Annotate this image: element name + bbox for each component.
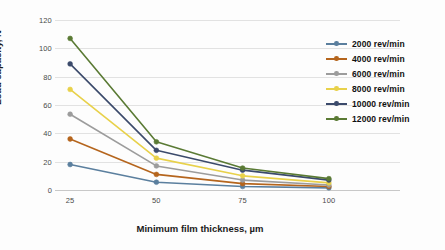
data-point (154, 139, 159, 144)
x-tick-label: 100 (309, 196, 349, 205)
x-axis-line (55, 190, 400, 191)
series-line (70, 64, 329, 180)
chart-legend: 2000 rev/min4000 rev/min6000 rev/min8000… (326, 36, 441, 126)
data-point (326, 176, 331, 181)
legend-marker-icon (326, 99, 347, 108)
series-line (70, 38, 329, 178)
series-4000-rev-min (68, 137, 332, 189)
legend-label: 12000 rev/min (352, 114, 410, 124)
legend-marker-icon (326, 114, 347, 123)
data-point (68, 87, 73, 92)
y-tick-label: 100 (16, 44, 52, 53)
legend-marker-icon (326, 84, 347, 93)
x-axis-title: Minimum film thickness, µm (0, 223, 400, 234)
legend-label: 8000 rev/min (352, 84, 405, 94)
data-point (154, 164, 159, 169)
legend-label: 6000 rev/min (352, 69, 405, 79)
legend-label: 2000 rev/min (352, 39, 405, 49)
data-point (240, 166, 245, 171)
legend-item[interactable]: 4000 rev/min (326, 51, 441, 66)
x-tick-label: 25 (50, 196, 90, 205)
legend-marker-icon (326, 54, 347, 63)
data-point (68, 112, 73, 117)
data-point (240, 173, 245, 178)
data-point (154, 180, 159, 185)
data-point (154, 148, 159, 153)
legend-label: 10000 rev/min (352, 99, 410, 109)
data-point (68, 162, 73, 167)
data-point (68, 62, 73, 67)
data-point (68, 137, 73, 142)
legend-label: 4000 rev/min (352, 54, 405, 64)
data-point (68, 36, 73, 41)
series-10000-rev-min (68, 62, 332, 183)
y-tick-label: 80 (16, 72, 52, 81)
legend-item[interactable]: 8000 rev/min (326, 81, 441, 96)
y-tick-label: 60 (16, 101, 52, 110)
legend-item[interactable]: 6000 rev/min (326, 66, 441, 81)
series-12000-rev-min (68, 36, 332, 181)
legend-item[interactable]: 2000 rev/min (326, 36, 441, 51)
y-tick-label: 20 (16, 157, 52, 166)
x-tick-label: 75 (223, 196, 263, 205)
y-tick-label: 120 (16, 16, 52, 25)
y-tick-label: 40 (16, 129, 52, 138)
data-point (154, 172, 159, 177)
legend-marker-icon (326, 69, 347, 78)
legend-item[interactable]: 12000 rev/min (326, 111, 441, 126)
legend-item[interactable]: 10000 rev/min (326, 96, 441, 111)
line-chart: Load capacity, N 020406080100120 2550751… (0, 0, 445, 250)
y-tick-label: 0 (16, 186, 52, 195)
x-tick-label: 50 (136, 196, 176, 205)
legend-marker-icon (326, 39, 347, 48)
y-axis-title: Load capacity, N (0, 30, 3, 105)
data-point (154, 156, 159, 161)
